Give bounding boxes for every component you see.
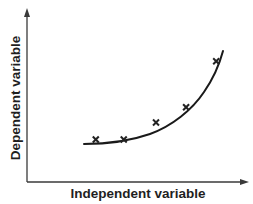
fitted-curve: [84, 51, 223, 144]
y-axis-label: Dependent variable: [8, 35, 23, 160]
y-axis: [24, 8, 30, 182]
data-markers: [93, 58, 219, 142]
data-point-marker-icon: [183, 104, 189, 110]
y-axis-arrow-icon: [24, 8, 30, 17]
chart: Independent variable Dependent variable: [0, 0, 253, 204]
data-point-marker-icon: [153, 120, 159, 126]
x-axis-arrow-icon: [240, 179, 249, 185]
data-point-marker-icon: [93, 137, 99, 143]
x-axis: [27, 179, 249, 185]
data-point-marker-icon: [213, 58, 219, 64]
x-axis-label: Independent variable: [70, 186, 206, 201]
